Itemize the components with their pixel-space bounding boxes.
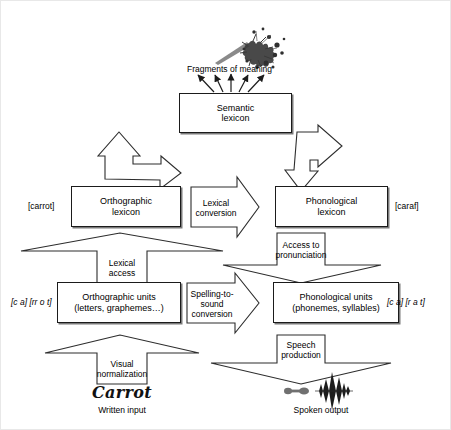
phonological-units-line2: (phonemes, syllables) bbox=[292, 303, 380, 313]
phonological-lexicon-line1: Phonological bbox=[306, 196, 358, 206]
side-label-orthographic-lexicon: [carrot] bbox=[28, 201, 54, 211]
access-to-pronunciation-arrow bbox=[223, 233, 381, 283]
spelling-to-sound-arrow bbox=[187, 273, 259, 333]
caption-written-input: Written input bbox=[72, 405, 172, 415]
node-phonological-lexicon[interactable]: Phonological lexicon bbox=[275, 186, 388, 227]
meaning-burst-icon bbox=[215, 28, 285, 69]
dual-route-reading-diagram: Semantic lexicon Orthographic lexicon Ph… bbox=[0, 0, 451, 430]
phonological-lexicon-line2: lexicon bbox=[306, 207, 358, 217]
lexical-conversion-arrow bbox=[191, 177, 259, 237]
node-phonological-units[interactable]: Phonological units (phonemes, syllables) bbox=[273, 282, 399, 323]
lexical-access-arrow bbox=[21, 233, 223, 283]
semantic-to-phonological-arrow bbox=[285, 125, 342, 191]
semantic-lexicon-line2: lexicon bbox=[217, 113, 255, 123]
caption-fragments-of-meaning: Fragments of meaning bbox=[187, 64, 272, 74]
visual-normalization-arrow bbox=[45, 335, 199, 384]
side-label-orthographic-units: [c a] [rr o t] bbox=[11, 297, 52, 307]
written-input-word: Carrot bbox=[72, 383, 172, 402]
side-label-phonological-units: [c a] [r a t] bbox=[387, 297, 425, 307]
orthographic-lexicon-line2: lexicon bbox=[100, 207, 152, 217]
orthographic-lexicon-line1: Orthographic bbox=[100, 196, 152, 206]
phonological-units-line1: Phonological units bbox=[292, 292, 380, 302]
speech-production-arrow bbox=[211, 335, 391, 384]
orthographic-to-semantic-arrow bbox=[98, 132, 181, 189]
node-semantic-lexicon[interactable]: Semantic lexicon bbox=[179, 93, 292, 133]
semantic-lexicon-line1: Semantic bbox=[217, 103, 255, 113]
meaning-fan-arrows bbox=[198, 74, 264, 92]
orthographic-units-line1: Orthographic units bbox=[74, 292, 164, 302]
caption-spoken-output: Spoken output bbox=[271, 405, 371, 415]
orthographic-units-line2: (letters, graphemes…) bbox=[74, 303, 164, 313]
node-orthographic-lexicon[interactable]: Orthographic lexicon bbox=[71, 186, 181, 227]
side-label-phonological-lexicon: [caraf] bbox=[395, 201, 419, 211]
node-orthographic-units[interactable]: Orthographic units (letters, graphemes…) bbox=[57, 282, 181, 323]
